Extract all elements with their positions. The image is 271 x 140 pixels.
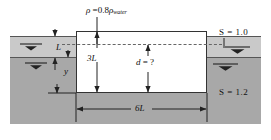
hydrostatics-figure: ρ =0.8ρwater S = 1.0 S = 1.2 L y 3L d = …	[0, 0, 271, 140]
dimension-d-unknown: = ?	[141, 57, 155, 67]
free-surface-icon-left-lower	[25, 63, 47, 70]
annotation-overlay	[0, 0, 271, 140]
dimension-label-y: y	[64, 67, 68, 76]
density-equals: =0.8	[90, 5, 109, 15]
free-surface-icon-right-upper	[225, 47, 250, 54]
free-surface-icon-right-lower	[213, 64, 238, 71]
specific-gravity-bottom-label: S = 1.2	[219, 88, 248, 97]
free-surface-icon-left-upper	[20, 44, 42, 51]
density-label: ρ =0.8ρwater	[86, 6, 127, 15]
dimension-label-L: L	[56, 43, 61, 52]
density-water-subscript: water	[113, 9, 127, 15]
specific-gravity-top-label: S = 1.0	[219, 28, 248, 37]
dimension-label-6L: 6L	[133, 104, 147, 113]
dimension-label-d: d = ?	[136, 58, 154, 67]
dimension-label-3L: 3L	[87, 54, 97, 63]
